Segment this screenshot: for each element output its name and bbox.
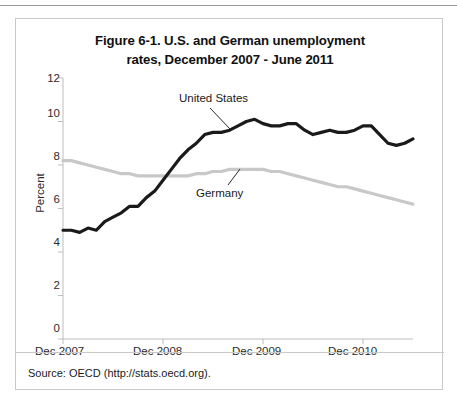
y-tick-label-12: 12 xyxy=(34,72,60,84)
x-axis-ticks xyxy=(63,339,363,344)
top-rule-divider xyxy=(0,5,457,6)
leader-line-united-states xyxy=(210,108,230,129)
plot-canvas xyxy=(16,19,444,391)
annotation-leader-lines xyxy=(210,108,240,185)
source-note: Source: OECD (http://stats.oecd.org). xyxy=(28,367,211,379)
series-annotation-united-states: United States xyxy=(179,92,248,104)
axis-lines xyxy=(58,78,413,344)
leader-line-germany xyxy=(228,169,240,185)
chart-area: Percent 12 10 8 6 4 2 0 Dec 2007 Dec 200… xyxy=(16,19,444,391)
series-line-united-states xyxy=(63,119,413,232)
source-divider xyxy=(16,352,444,353)
y-tick-label-4: 4 xyxy=(34,236,60,248)
series-annotation-germany: Germany xyxy=(196,187,243,199)
x-tick-label-dec-2010: Dec 2010 xyxy=(328,345,377,357)
x-tick-label-dec-2007: Dec 2007 xyxy=(35,345,84,357)
figure-root: Figure 6-1. U.S. and German unemployment… xyxy=(0,0,457,412)
y-tick-label-10: 10 xyxy=(34,107,60,119)
y-tick-label-0: 0 xyxy=(34,322,60,334)
x-tick-label-dec-2009: Dec 2009 xyxy=(232,345,281,357)
figure-panel: Figure 6-1. U.S. and German unemployment… xyxy=(15,18,443,390)
y-tick-label-2: 2 xyxy=(34,279,60,291)
data-series-group xyxy=(63,119,413,232)
y-tick-label-6: 6 xyxy=(34,193,60,205)
x-tick-label-dec-2008: Dec 2008 xyxy=(133,345,182,357)
y-tick-label-8: 8 xyxy=(34,150,60,162)
